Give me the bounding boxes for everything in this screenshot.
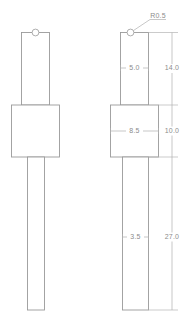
left-view-center-block [12, 105, 60, 157]
stem-width-label: 3.5 [130, 233, 140, 240]
fillet-leader-line [134, 20, 167, 31]
cad-drawing-canvas: R0.5 5.0 14.0 8.5 [0, 0, 193, 326]
right-view-fillet-circle [127, 29, 134, 36]
stem-height-label: 27.0 [165, 233, 179, 240]
left-view-group [12, 29, 60, 310]
block-width-label: 8.5 [129, 127, 139, 134]
fillet-radius-label: R0.5 [150, 12, 166, 19]
dimension-stem-height: 27.0 [149, 157, 182, 310]
dimension-fillet-radius: R0.5 [134, 12, 167, 31]
dimension-top-height: 14.0 [149, 33, 182, 106]
left-view-bottom-stem [28, 157, 45, 310]
left-view-fillet-circle [32, 29, 39, 36]
left-view-top-rectangle [22, 33, 50, 106]
top-width-label: 5.0 [129, 64, 139, 71]
block-height-label: 10.0 [165, 127, 179, 134]
drawing-svg: R0.5 5.0 14.0 8.5 [0, 0, 193, 326]
top-height-label: 14.0 [165, 64, 179, 71]
